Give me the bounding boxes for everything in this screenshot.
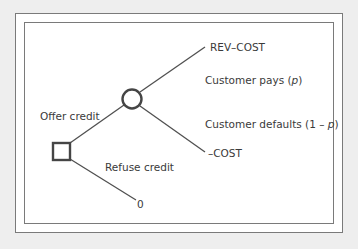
offer-credit-label: Offer credit (40, 110, 100, 122)
branch-customer-pays (140, 47, 205, 92)
outcome-defaults-label: –COST (208, 147, 242, 159)
customer-pays-label: Customer pays (p) (205, 74, 302, 86)
outcome-refuse-label: 0 (137, 198, 144, 210)
outcome-pays-label: REV–COST (210, 41, 265, 53)
refuse-credit-label: Refuse credit (105, 161, 174, 173)
customer-defaults-label: Customer defaults (1 – p) (205, 118, 339, 130)
customer-pays-close: ) (298, 74, 302, 86)
customer-defaults-text: Customer defaults (1 – (205, 118, 328, 130)
branch-customer-defaults (140, 106, 205, 152)
decision-node-square (53, 143, 70, 160)
customer-pays-text: Customer pays ( (205, 74, 292, 86)
chance-node-circle (123, 90, 142, 109)
customer-defaults-close: ) (334, 118, 338, 130)
